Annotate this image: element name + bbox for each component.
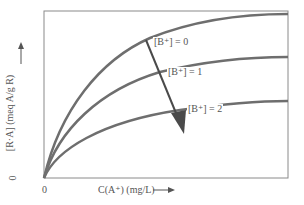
- y-tick-0: 0: [8, 176, 18, 181]
- label-b1: [B⁺] = 1: [167, 67, 203, 77]
- x-axis-label: C(A⁺) (mg/L): [98, 185, 155, 195]
- chart-canvas: [0, 0, 304, 205]
- label-b2: [B⁺] = 2: [187, 104, 223, 114]
- y-axis-label: [R·A] (meq A/g R): [5, 75, 15, 151]
- curve-b1: [44, 57, 288, 178]
- trend-arrow-head: [171, 110, 186, 134]
- trend-arrow-shaft: [146, 40, 178, 118]
- x-tick-0: 0: [42, 185, 47, 195]
- label-b0: [B⁺] = 0: [153, 37, 189, 47]
- x-axis-arrow-icon: [168, 187, 175, 193]
- y-axis-arrow-icon: [18, 42, 24, 49]
- curve-b2: [44, 101, 288, 178]
